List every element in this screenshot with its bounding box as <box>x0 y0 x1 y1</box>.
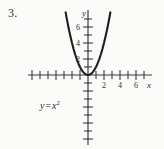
x-tick-label-2: 2 <box>102 81 106 90</box>
y-tick-label-4: 4 <box>76 39 80 48</box>
x-tick-label-6: 6 <box>134 81 138 90</box>
equation-rhs-exponent: 2 <box>57 99 60 106</box>
parabola-graph: 2 4 6 2 4 6 y x <box>0 0 164 149</box>
y-tick-label-2: 2 <box>76 55 80 64</box>
y-tick-label-6: 6 <box>76 23 80 32</box>
y-axis-label: y <box>81 8 86 18</box>
figure-container: 3. <box>0 0 164 149</box>
equation-label: y=x2 <box>40 99 60 111</box>
x-tick-label-4: 4 <box>118 81 122 90</box>
equation-operator: = <box>44 100 52 111</box>
x-axis-label: x <box>146 80 151 90</box>
